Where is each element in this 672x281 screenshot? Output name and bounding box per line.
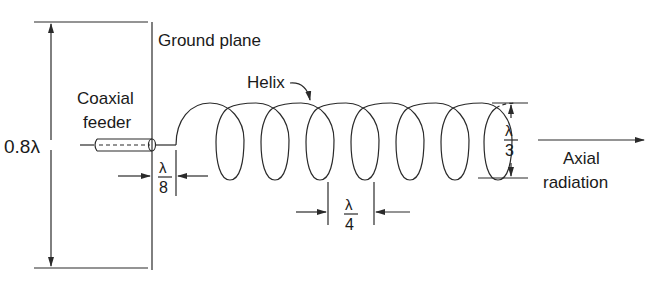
helix-label: Helix xyxy=(247,73,285,92)
radiation-label: radiation xyxy=(543,173,608,192)
spacing-numerator: λ xyxy=(159,159,167,176)
helical-antenna-diagram: 0.8λ Ground plane Coaxial feeder Helix λ… xyxy=(0,0,672,281)
coaxial-label: Coaxial xyxy=(77,89,134,108)
coaxial-feeder xyxy=(95,139,156,151)
helix-pointer xyxy=(290,83,310,100)
pitch-denominator: 4 xyxy=(345,216,354,233)
ground-plane-label: Ground plane xyxy=(158,31,261,50)
diameter-dimension xyxy=(478,103,528,178)
axial-label: Axial xyxy=(563,149,600,168)
feeder-label: feeder xyxy=(83,113,132,132)
diameter-denominator: 3 xyxy=(505,142,514,159)
helix xyxy=(155,103,516,180)
pitch-numerator: λ xyxy=(345,196,353,213)
ground-plane-size-label: 0.8λ xyxy=(4,136,40,157)
spacing-denominator: 8 xyxy=(159,179,168,196)
diameter-numerator: λ xyxy=(505,122,513,139)
